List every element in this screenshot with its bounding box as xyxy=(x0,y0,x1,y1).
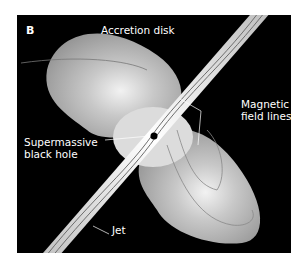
black-hole xyxy=(151,133,158,140)
panel-label: B xyxy=(26,24,34,37)
label-jet: Jet xyxy=(112,224,126,236)
diagram-panel: B Accretion disk Magnetic field lines Su… xyxy=(17,15,291,253)
label-accretion-disk: Accretion disk xyxy=(101,24,175,36)
black-hole-illustration xyxy=(17,15,291,253)
label-magnetic-field-lines: Magnetic field lines xyxy=(241,98,291,122)
label-supermassive-black-hole: Supermassive black hole xyxy=(24,136,98,160)
